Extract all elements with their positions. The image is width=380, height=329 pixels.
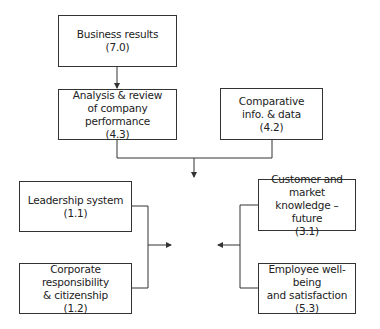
node-label: Analysis & review — [73, 89, 162, 102]
node-label: Customer and market — [259, 173, 355, 199]
node-corporate-responsibility: Corporate responsibility & citizenship (… — [19, 263, 132, 314]
node-code: (3.1) — [295, 225, 319, 238]
node-code: (4.3) — [106, 128, 130, 141]
node-analysis-review: Analysis & review of company performance… — [58, 89, 177, 140]
node-label: and satisfaction — [267, 289, 347, 302]
node-label: info. & data — [242, 108, 301, 121]
node-code: (1.2) — [64, 302, 88, 315]
node-business-results: Business results (7.0) — [58, 15, 177, 67]
node-label: & citizenship — [43, 289, 108, 302]
node-label: Employee well-being — [259, 263, 355, 289]
node-label: knowledge – future — [259, 199, 355, 225]
node-label: Corporate responsibility — [20, 263, 131, 289]
node-employee-wellbeing: Employee well-being and satisfaction (5.… — [258, 263, 356, 314]
node-label: Leadership system — [28, 194, 124, 207]
node-code: (5.3) — [295, 302, 319, 315]
node-label: of company performance — [59, 102, 176, 128]
node-code: (7.0) — [106, 41, 130, 54]
node-customer-market: Customer and market knowledge – future (… — [258, 179, 356, 231]
node-label: Business results — [77, 28, 159, 41]
node-comparative-info: Comparative info. & data (4.2) — [220, 88, 323, 140]
node-leadership-system: Leadership system (1.1) — [19, 181, 132, 232]
node-label: Comparative — [239, 95, 304, 108]
node-code: (4.2) — [260, 121, 284, 134]
node-code: (1.1) — [64, 207, 88, 220]
